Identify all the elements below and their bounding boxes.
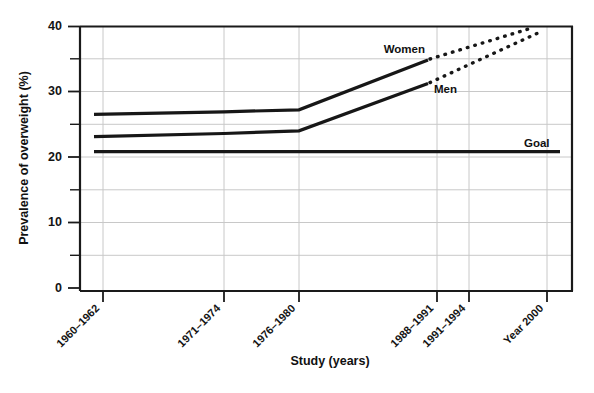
ytick-label-40: 40: [48, 19, 62, 33]
line-chart: 40 30 20 10 0 Prevalence of overweight (…: [0, 0, 594, 393]
ytick-label-0: 0: [55, 281, 62, 295]
ytick-label-20: 20: [48, 150, 62, 164]
y-tick-marks: [68, 27, 80, 289]
xtick-label-1: 1960–1962: [54, 302, 101, 349]
ytick-label-30: 30: [48, 84, 62, 98]
plot-background: [80, 26, 573, 291]
y-axis-title: Prevalence of overweight (%): [17, 71, 31, 245]
xtick-label-6: Year 2000: [501, 302, 545, 346]
xtick-label-3: 1976–1980: [250, 302, 297, 349]
x-axis-title: Study (years): [290, 354, 369, 368]
series-label-women: Women: [384, 43, 425, 55]
ytick-label-10: 10: [48, 215, 62, 229]
chart-figure: 40 30 20 10 0 Prevalence of overweight (…: [0, 0, 594, 393]
x-tick-marks: [103, 291, 547, 302]
series-label-goal: Goal: [524, 137, 550, 149]
xtick-label-2: 1971–1974: [175, 301, 223, 349]
series-label-men: Men: [434, 83, 457, 95]
